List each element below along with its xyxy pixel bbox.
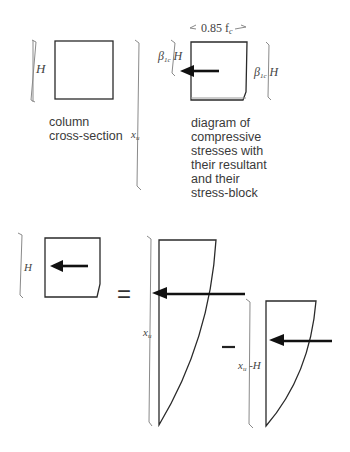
label-fc: 0.85 fc (201, 21, 233, 36)
svg-text:compressive: compressive (191, 130, 261, 144)
svg-text:stress-block: stress-block (191, 186, 258, 200)
svg-text:and their: and their (191, 172, 240, 186)
svg-text:stresses with: stresses with (191, 144, 263, 158)
square-section (55, 41, 113, 99)
small-stress-block: H (18, 233, 100, 298)
label-H: H (35, 61, 46, 76)
caption-column: column (49, 115, 89, 129)
arrow-head-icon (180, 65, 194, 77)
caption-cross-section: cross-section (49, 129, 123, 143)
subtracted-stress-block: xu -H (237, 299, 332, 428)
label-beta-right: β1c H (253, 65, 280, 80)
arrow-right-fc (235, 25, 246, 29)
parabolic-block-small (266, 301, 316, 426)
svg-text:xu: xu (130, 128, 140, 142)
svg-text:their resultant: their resultant (191, 158, 267, 172)
label-beta-left: β1c H (157, 49, 184, 64)
label-xu-minus-H: xu -H (237, 359, 262, 373)
stress-block-diagram: H column cross-section xu 0.85 fc β1c H (0, 0, 350, 452)
svg-text:diagram of: diagram of (191, 116, 251, 130)
full-stress-block: xu (142, 236, 245, 426)
parabolic-block (159, 240, 216, 425)
arrow-left-fc (190, 25, 196, 29)
stress-block-top: 0.85 fc β1c H β1c H diagram of compressi… (157, 21, 280, 200)
column-cross-section: H column cross-section (31, 40, 123, 143)
xu-dimension-top: xu (130, 40, 141, 190)
label-H-bottom: H (23, 261, 33, 273)
equals-sign: = (117, 280, 131, 307)
